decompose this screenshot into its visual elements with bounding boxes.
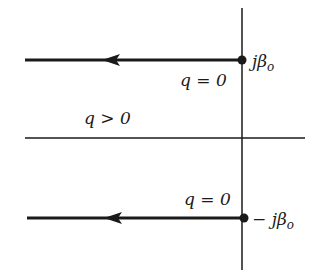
upper-q-label: q = 0 [180, 70, 227, 90]
region-label: q > 0 [84, 108, 131, 128]
upper-pole-label: jβo [248, 51, 274, 74]
lower-q-label: q = 0 [184, 189, 231, 209]
lower-pole-label: − jβo [252, 209, 294, 232]
upper-pole-dot [238, 56, 247, 65]
contour-diagram: jβo q = 0 q > 0 q = 0 − jβo [0, 0, 320, 276]
lower-pole-dot [240, 214, 249, 223]
